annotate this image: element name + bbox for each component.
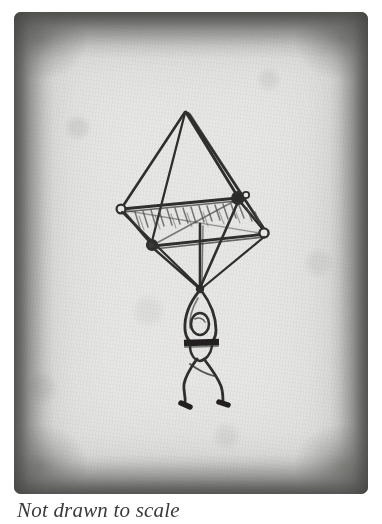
- figure-caption: Not drawn to scale: [17, 498, 365, 522]
- page-root: Not drawn to scale: [0, 0, 382, 524]
- photo-vignette: [14, 12, 368, 494]
- sketch-photo-panel: [14, 12, 368, 494]
